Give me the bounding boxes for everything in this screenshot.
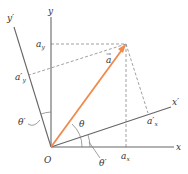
theta-prime-label-top: θ′ bbox=[18, 117, 25, 127]
theta-prime-leader-bottom bbox=[89, 142, 100, 158]
y-prime-axis-label: y′ bbox=[6, 13, 14, 23]
ax-label: ax bbox=[121, 151, 130, 162]
angle-arcs bbox=[28, 112, 100, 158]
origin-label: O bbox=[44, 155, 52, 165]
y-prime-axis bbox=[14, 27, 51, 147]
y-axis-label: y bbox=[47, 6, 54, 16]
theta-prime-leader-top bbox=[28, 120, 40, 125]
axes bbox=[14, 17, 174, 147]
vector-diagram: O y x y′ x′ a → ay ax a′y a′x θ θ′ θ′ bbox=[0, 0, 188, 174]
theta-label: θ bbox=[79, 119, 85, 129]
vector-a-arrowhead bbox=[118, 44, 126, 53]
x-axis-label: x bbox=[176, 142, 181, 152]
ay-prime-label: a′y bbox=[15, 72, 26, 84]
vector-a bbox=[51, 44, 126, 147]
ax-prime-label: a′x bbox=[147, 116, 158, 127]
x-prime-axis-label: x′ bbox=[172, 97, 179, 107]
theta-prime-label-bottom: θ′ bbox=[99, 158, 106, 168]
theta-prime-arc-bottom bbox=[88, 135, 90, 147]
x-prime-axis bbox=[51, 107, 171, 147]
vector-arrow-icon: → bbox=[106, 50, 111, 57]
vector-a-line bbox=[51, 47, 124, 147]
theta-prime-arc-top bbox=[41, 112, 51, 114]
ax-prime-projection bbox=[126, 44, 148, 113]
ay-label: ay bbox=[36, 39, 45, 51]
